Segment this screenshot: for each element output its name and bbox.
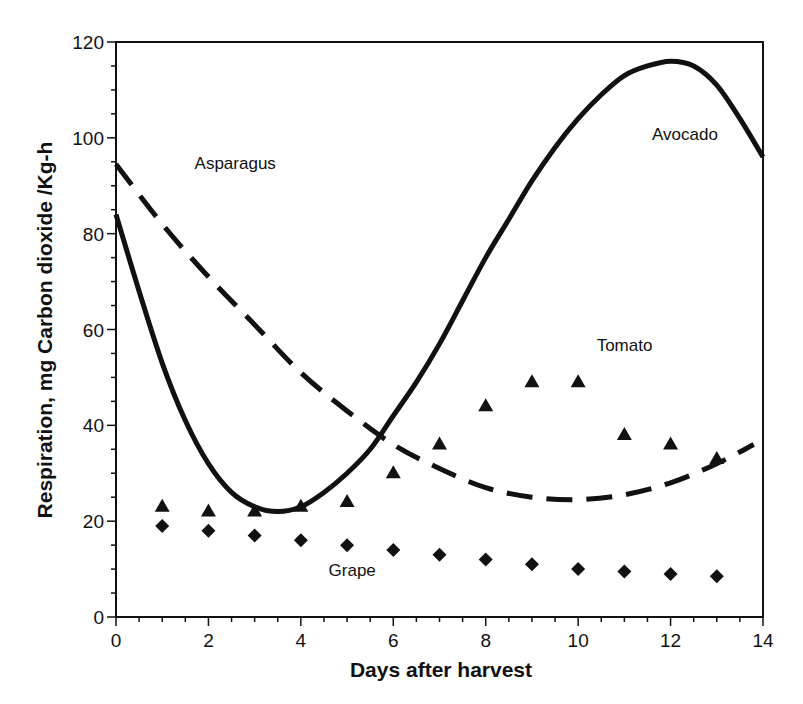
y-tick-label: 20 xyxy=(83,511,104,532)
y-tick-label: 100 xyxy=(72,128,104,149)
triangle-marker xyxy=(201,504,216,517)
x-tick-label: 14 xyxy=(752,630,774,651)
series-grape xyxy=(155,519,724,583)
y-tick-label: 60 xyxy=(83,320,104,341)
diamond-marker xyxy=(386,543,400,557)
triangle-marker xyxy=(617,427,632,440)
y-tick-label: 80 xyxy=(83,224,104,245)
diamond-marker xyxy=(433,548,447,562)
label-grape: Grape xyxy=(329,561,376,580)
diamond-marker xyxy=(294,533,308,547)
diamond-marker xyxy=(155,519,169,533)
x-tick-label: 10 xyxy=(568,630,589,651)
triangle-marker xyxy=(340,494,355,507)
label-asparagus: Asparagus xyxy=(195,154,276,173)
label-avocado: Avocado xyxy=(652,125,718,144)
y-tick-label: 0 xyxy=(93,607,104,628)
diamond-marker xyxy=(710,569,724,583)
y-axis-title: Respiration, mg Carbon dioxide /Kg-h xyxy=(33,142,56,519)
triangle-marker xyxy=(386,465,401,478)
triangle-marker xyxy=(155,499,170,512)
x-axis-title: Days after harvest xyxy=(350,658,532,681)
x-tick-label: 6 xyxy=(388,630,399,651)
x-tick-label: 12 xyxy=(660,630,681,651)
triangle-marker xyxy=(571,374,586,387)
series-tomato xyxy=(155,374,725,516)
respiration-chart: 02468101214 020406080100120 AvocadoAspar… xyxy=(0,0,803,704)
diamond-marker xyxy=(201,524,215,538)
triangle-marker xyxy=(524,374,539,387)
chart-canvas: 02468101214 020406080100120 AvocadoAspar… xyxy=(0,0,803,704)
y-axis: 020406080100120 xyxy=(72,32,116,628)
diamond-marker xyxy=(617,564,631,578)
y-tick-label: 40 xyxy=(83,415,104,436)
diamond-marker xyxy=(525,557,539,571)
x-tick-label: 0 xyxy=(111,630,122,651)
triangle-marker xyxy=(478,398,493,411)
triangle-marker xyxy=(663,437,678,450)
triangle-marker xyxy=(709,451,724,464)
x-tick-label: 8 xyxy=(480,630,491,651)
diamond-marker xyxy=(340,538,354,552)
diamond-marker xyxy=(571,562,585,576)
diamond-marker xyxy=(248,529,262,543)
x-tick-label: 2 xyxy=(203,630,214,651)
label-tomato: Tomato xyxy=(597,336,653,355)
x-axis: 02468101214 xyxy=(111,617,774,651)
diamond-marker xyxy=(479,553,493,567)
triangle-marker xyxy=(432,437,447,450)
diamond-marker xyxy=(664,567,678,581)
x-tick-label: 4 xyxy=(296,630,307,651)
y-tick-label: 120 xyxy=(72,32,104,53)
